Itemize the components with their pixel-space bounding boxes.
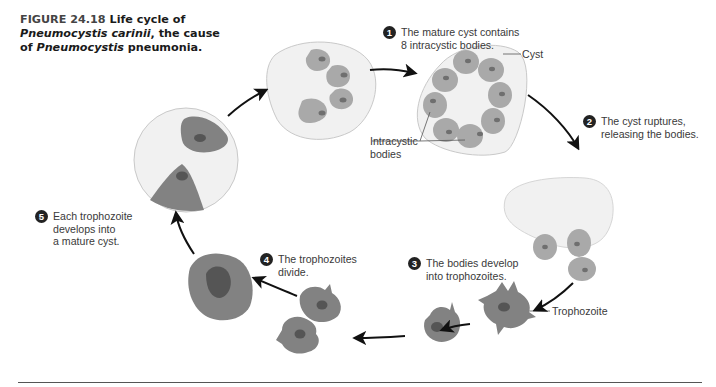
step-2: 2 The cyst ruptures,releasing the bodies… <box>583 115 699 140</box>
ruptured-cyst <box>504 178 613 281</box>
trophozoite <box>478 281 536 335</box>
step-badge: 3 <box>408 257 421 270</box>
step-badge: 5 <box>35 210 48 223</box>
arrow-5 <box>355 336 405 338</box>
life-cycle-diagram <box>0 0 716 387</box>
arrow-6 <box>254 278 297 296</box>
step-badge: 2 <box>583 115 596 128</box>
dividing-trophozoites <box>276 284 341 354</box>
step-1: 1 The mature cyst contains8 intracystic … <box>383 26 519 51</box>
arrow-8 <box>228 90 266 116</box>
early-cyst <box>134 108 238 212</box>
label-cyst: Cyst <box>522 48 543 61</box>
developing-cyst <box>267 42 376 139</box>
step-5: 5 Each trophozoitedevelops intoa mature … <box>35 210 133 248</box>
large-trophozoite <box>188 253 252 320</box>
label-intracystic-bodies: Intracysticbodies <box>370 135 418 160</box>
step-3: 3 The bodies developinto trophozoites. <box>408 257 518 282</box>
arrow-7 <box>176 213 194 254</box>
arrow-2 <box>528 95 578 148</box>
mature-cyst <box>417 45 527 155</box>
arrow-1 <box>370 69 415 73</box>
step-badge: 4 <box>260 253 273 266</box>
step-badge: 1 <box>383 26 396 39</box>
step-4: 4 The trophozoitesdivide. <box>260 253 357 278</box>
trophozoite-growing <box>424 302 460 342</box>
label-trophozoite: Trophozoite <box>552 305 608 318</box>
bottom-rule <box>18 382 702 383</box>
